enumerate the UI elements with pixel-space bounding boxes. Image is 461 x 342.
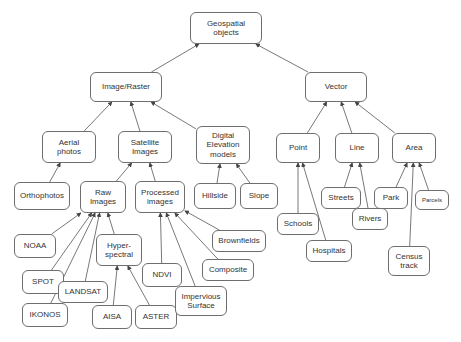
edge-satellite-images-to-image-raster xyxy=(131,102,140,131)
edge-slope-to-digital-elevation-models xyxy=(236,164,249,183)
node-rivers[interactable]: Rivers xyxy=(352,208,388,230)
edge-processed-images-to-satellite-images xyxy=(150,163,155,181)
node-line[interactable]: Line xyxy=(335,133,379,163)
node-impervious-surface[interactable]: Impervious Surface xyxy=(175,286,227,316)
edge-ndvi-to-processed-images xyxy=(160,213,161,263)
edge-noaa-to-raw-images xyxy=(52,213,81,234)
edge-vector-to-geospatial-objects xyxy=(256,44,308,72)
node-park[interactable]: Park xyxy=(374,187,408,209)
edge-raw-images-to-satellite-images xyxy=(116,163,131,181)
node-schools[interactable]: Schools xyxy=(277,213,319,235)
node-raw-images[interactable]: Raw Images xyxy=(80,181,126,213)
node-parcels[interactable]: Parcels xyxy=(415,190,449,210)
node-ikonos[interactable]: IKONOS xyxy=(22,303,68,327)
edge-park-to-area xyxy=(396,163,407,187)
node-geospatial-objects[interactable]: Geospatial objects xyxy=(190,12,262,44)
edge-line-to-vector xyxy=(341,102,352,133)
node-digital-elevation-models[interactable]: Digital Elevation models xyxy=(196,126,250,164)
node-satellite-images[interactable]: Satellite Images xyxy=(118,131,172,163)
node-streets[interactable]: Streets xyxy=(321,187,361,209)
node-area[interactable]: Area xyxy=(392,133,436,163)
node-noaa[interactable]: NOAA xyxy=(14,234,56,258)
edge-streets-to-line xyxy=(345,163,353,187)
node-point[interactable]: Point xyxy=(276,133,320,163)
node-aster[interactable]: ASTER xyxy=(135,305,177,329)
edge-aerial-photos-to-image-raster xyxy=(84,102,112,131)
edge-orthophotos-to-aerial-photos xyxy=(50,163,61,182)
node-composite[interactable]: Composite xyxy=(202,259,254,281)
node-processed-images[interactable]: Processed images xyxy=(135,181,185,213)
node-hillside[interactable]: Hillside xyxy=(194,183,236,209)
node-census-track[interactable]: Census track xyxy=(388,246,430,276)
node-aerial-photos[interactable]: Aerial photos xyxy=(42,131,96,163)
edge-hyper-spectral-to-raw-images xyxy=(108,213,114,234)
node-image-raster[interactable]: Image/Raster xyxy=(90,72,162,102)
edge-brownfields-to-processed-images xyxy=(185,211,219,230)
geospatial-taxonomy-diagram: Geospatial objectsImage/RasterVectorAeri… xyxy=(0,0,461,342)
edge-parcels-to-area xyxy=(419,163,428,190)
node-slope[interactable]: Slope xyxy=(240,183,278,209)
node-ndvi[interactable]: NDVI xyxy=(142,263,182,287)
edge-image-raster-to-geospatial-objects xyxy=(151,44,199,72)
edge-aisa-to-hyper-spectral xyxy=(113,266,117,305)
node-aisa[interactable]: AISA xyxy=(92,305,132,329)
node-brownfields[interactable]: Brownfields xyxy=(212,230,266,252)
edge-digital-elevation-models-to-image-raster xyxy=(151,102,196,129)
edge-point-to-vector xyxy=(307,102,326,133)
node-orthophotos[interactable]: Orthophotos xyxy=(14,182,70,210)
edge-census-track-to-area xyxy=(410,163,414,246)
edge-area-to-vector xyxy=(355,102,395,133)
node-hospitals[interactable]: Hospitals xyxy=(306,240,352,262)
node-landsat[interactable]: LANDSAT xyxy=(58,281,108,303)
edge-hillside-to-digital-elevation-models xyxy=(217,164,220,183)
node-hyper-spectral[interactable]: Hyper- spectral xyxy=(96,234,142,266)
node-vector[interactable]: Vector xyxy=(305,72,367,102)
